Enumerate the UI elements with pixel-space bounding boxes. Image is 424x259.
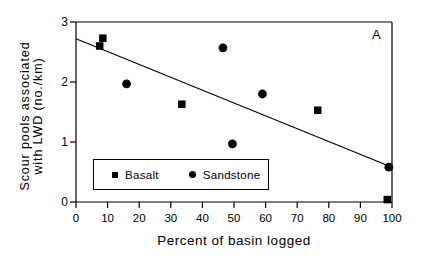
- x-tick-label-70: 70: [282, 212, 312, 224]
- x-tick-label-90: 90: [345, 212, 375, 224]
- x-tick-label-50: 50: [219, 212, 249, 224]
- x-tick-label-30: 30: [156, 212, 186, 224]
- square-marker-icon: [112, 172, 118, 178]
- circle-marker-icon: [189, 171, 196, 178]
- legend-label-sandstone: Sandstone: [203, 169, 261, 181]
- series-sandstone-markers: [122, 43, 393, 171]
- data-point-sandstone: [122, 79, 131, 88]
- x-tick-label-10: 10: [93, 212, 123, 224]
- legend-item-basalt: Basalt: [112, 169, 159, 181]
- y-tick-label-1: 1: [46, 136, 68, 148]
- x-tick-label-20: 20: [124, 212, 154, 224]
- data-point-basalt: [178, 100, 186, 108]
- data-point-basalt: [96, 42, 104, 50]
- legend-label-basalt: Basalt: [125, 169, 159, 181]
- x-tick-label-40: 40: [187, 212, 217, 224]
- legend-item-sandstone: Sandstone: [189, 169, 261, 181]
- panel-label: A: [372, 27, 381, 42]
- x-tick-label-80: 80: [314, 212, 344, 224]
- data-point-sandstone: [384, 163, 393, 172]
- data-point-basalt: [99, 34, 107, 42]
- y-tick-label-0: 0: [46, 196, 68, 208]
- x-tick-label-60: 60: [251, 212, 281, 224]
- x-tick-label-0: 0: [61, 212, 91, 224]
- y-axis-ticks: [70, 22, 76, 202]
- y-tick-label-2: 2: [46, 76, 68, 88]
- chart-figure: Scour pools associated with LWD (no./km): [0, 0, 424, 259]
- data-point-basalt: [314, 106, 322, 114]
- data-point-sandstone: [219, 43, 228, 52]
- data-point-basalt: [384, 196, 392, 204]
- x-axis-title: Percent of basin logged: [76, 233, 392, 248]
- chart-legend: Basalt Sandstone: [93, 159, 269, 190]
- data-point-sandstone: [228, 139, 237, 148]
- x-tick-label-100: 100: [377, 212, 407, 224]
- y-tick-label-3: 3: [46, 16, 68, 28]
- x-axis-ticks: [76, 202, 392, 208]
- data-point-sandstone: [258, 90, 267, 99]
- regression-trendline: [76, 39, 392, 167]
